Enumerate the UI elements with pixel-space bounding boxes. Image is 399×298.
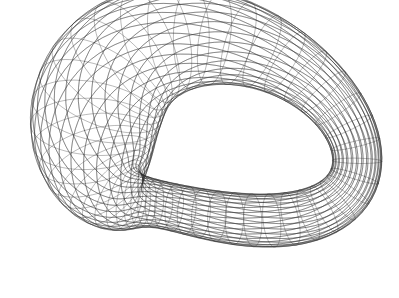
mesh-line: [33, 0, 372, 229]
wireframe-figure: Wireframe rendering of a self-intersecti…: [0, 0, 399, 298]
mesh-line: [333, 158, 382, 163]
mesh-line: [66, 0, 382, 245]
mesh-line: [121, 0, 180, 102]
mesh-line: [225, 193, 243, 245]
mesh-line: [54, 0, 380, 242]
mesh-line: [54, 0, 380, 242]
mesh-line: [33, 0, 372, 229]
wireframe-surface: [0, 0, 399, 298]
mesh-line: [71, 18, 168, 117]
mesh-line: [66, 0, 382, 245]
mesh-line: [148, 0, 192, 95]
